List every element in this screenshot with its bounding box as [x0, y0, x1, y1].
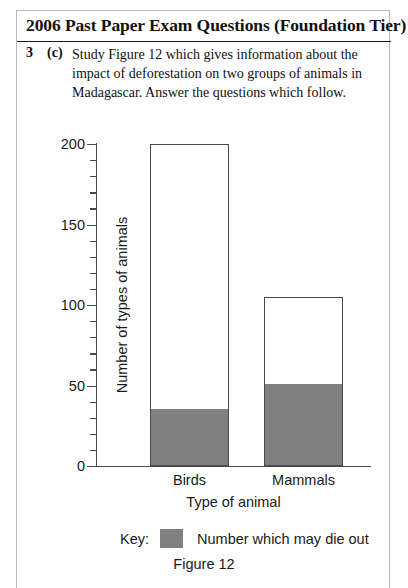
figure-caption: Figure 12 — [17, 556, 391, 572]
y-tick-label: 0 — [77, 458, 85, 474]
x-tick-label-mammals: Mammals — [272, 472, 335, 488]
y-tick-minor — [90, 434, 96, 435]
chart-key-inner: Key: Number which may die out — [120, 529, 369, 548]
y-tick-major — [87, 466, 96, 467]
y-tick-minor — [90, 208, 96, 209]
y-tick-minor — [90, 418, 96, 419]
y-tick-minor — [90, 273, 96, 274]
y-tick-label: 100 — [61, 297, 85, 313]
y-tick-minor — [90, 337, 96, 338]
y-tick-major — [87, 225, 96, 226]
plot-area: 050100150200 BirdsMammals Number of type… — [96, 144, 371, 466]
x-axis-title: Type of animal — [186, 494, 280, 510]
page-title: 2006 Past Paper Exam Questions (Foundati… — [26, 15, 406, 36]
bar-fill-die-out-mammals — [265, 384, 342, 465]
exam-page: 2006 Past Paper Exam Questions (Foundati… — [16, 10, 390, 588]
figure-12-chart: 050100150200 BirdsMammals Number of type… — [17, 121, 391, 521]
page-header: 2006 Past Paper Exam Questions (Foundati… — [17, 11, 391, 42]
key-swatch-icon — [160, 529, 183, 548]
key-label: Key: — [120, 531, 149, 547]
bar-birds — [150, 144, 229, 466]
y-tick-major — [87, 386, 96, 387]
y-tick-minor — [90, 450, 96, 451]
y-tick-minor — [90, 160, 96, 161]
y-tick-minor — [90, 192, 96, 193]
y-tick-minor — [90, 289, 96, 290]
y-tick-major — [87, 144, 96, 145]
key-series-label: Number which may die out — [197, 531, 369, 547]
bar-mammals — [264, 297, 343, 466]
chart-key: Key: Number which may die out — [17, 529, 391, 553]
question-text: Study Figure 12 which gives information … — [72, 45, 382, 102]
y-tick-minor — [90, 353, 96, 354]
y-tick-minor — [90, 176, 96, 177]
y-tick-minor — [90, 241, 96, 242]
y-tick-major — [87, 305, 96, 306]
y-tick-label: 150 — [61, 217, 85, 233]
y-axis-title: Number of types of animals — [114, 217, 130, 394]
x-tick-label-birds: Birds — [173, 472, 206, 488]
y-tick-label: 50 — [69, 378, 85, 394]
question-number: 3 — [26, 45, 33, 61]
y-tick-minor — [90, 402, 96, 403]
y-tick-minor — [90, 369, 96, 370]
bar-fill-die-out-birds — [151, 409, 228, 465]
x-axis-line — [96, 466, 371, 467]
y-tick-minor — [90, 257, 96, 258]
y-axis-line — [96, 143, 97, 467]
question-part-label: (c) — [47, 45, 63, 61]
y-tick-label: 200 — [61, 136, 85, 152]
y-tick-minor — [90, 321, 96, 322]
